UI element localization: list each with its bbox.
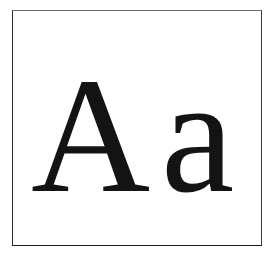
glyph-uppercase-a: A <box>31 53 150 218</box>
glyph-lowercase-a: a <box>161 53 234 218</box>
specimen-frame: A a <box>12 10 262 246</box>
glyph-row: A a <box>13 11 261 245</box>
specimen-canvas: A a <box>0 0 278 260</box>
